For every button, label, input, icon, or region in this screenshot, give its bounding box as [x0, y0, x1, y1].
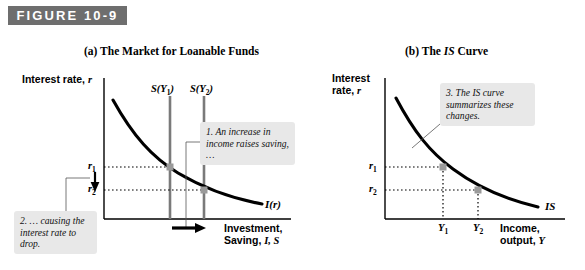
panel-a-y-axis-label: Interest rate, r: [22, 73, 92, 86]
investment-curve-label: I(r): [265, 198, 281, 210]
panel-b-x-axis-label: Income,output, Y: [500, 222, 545, 247]
callout-is-summary: 3. The IS curve summarizes these changes…: [440, 83, 535, 126]
panel-a-tick-r2: r2: [88, 183, 96, 197]
figure-container: FIGURE 10-9 (a) The Market for Loanable …: [0, 0, 585, 270]
saving-shift-arrow-head: [195, 223, 206, 233]
panel-a-equilibrium-marker-2: [201, 187, 208, 194]
panel-b-tick-r2: r2: [369, 183, 377, 197]
saving-label-y2: S(Y2): [190, 83, 213, 97]
panel-b-tick-y2: Y2: [473, 222, 483, 236]
panel-a-tick-r1: r1: [88, 160, 96, 174]
is-curve-label: IS: [545, 200, 555, 212]
panel-b-marker-1: [440, 164, 447, 171]
panel-b-marker-2: [475, 187, 482, 194]
saving-label-y1: S(Y1): [151, 83, 174, 97]
panel-a-equilibrium-marker-1: [167, 164, 174, 171]
callout-interest-drop: 2. … causing the interest rate to drop.: [14, 211, 97, 254]
panel-b-y-axis-label: Interestrate, r: [332, 72, 370, 97]
panel-a-x-axis-label: Investment,Saving, I, S: [224, 222, 282, 247]
panel-b-tick-y1: Y1: [438, 222, 448, 236]
panel-b-tick-r1: r1: [369, 160, 377, 174]
callout-increase-income: 1. An increase in income raises saving, …: [200, 122, 295, 165]
